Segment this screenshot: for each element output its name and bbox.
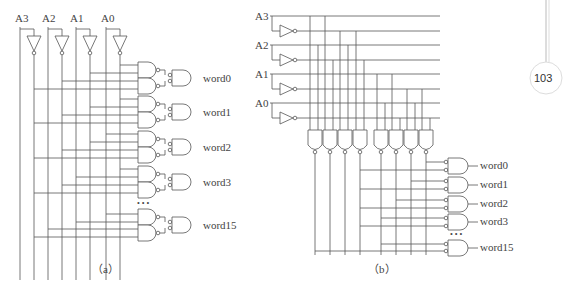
predecode-gates (308, 130, 433, 154)
caption-a: （a） (92, 263, 119, 275)
input-label-a2: A2 (42, 12, 55, 24)
input-label-a1: A1 (255, 68, 268, 80)
output-label-word2: word2 (480, 197, 508, 209)
final-and-gates (444, 158, 468, 256)
output-label-word15: word15 (480, 241, 514, 253)
page-number: 103 (534, 72, 552, 84)
output-label-word3: word3 (203, 176, 232, 188)
decoder-diagram: A3 A2 A1 A0 (0, 0, 575, 289)
output-label-word1: word1 (480, 178, 508, 190)
ellipsis: • • • (137, 199, 150, 208)
output-label-word0: word0 (480, 159, 509, 171)
output-label-word2: word2 (203, 141, 231, 153)
input-label-a3: A3 (15, 12, 29, 24)
figure-b: A3 A2 A1 A0 (255, 10, 514, 275)
output-label-word0: word0 (203, 72, 232, 84)
output-label-word15: word15 (203, 219, 237, 231)
input-label-a0: A0 (255, 97, 269, 109)
nand-and-gates-a (138, 62, 191, 241)
figure-a: A3 A2 A1 A0 (15, 12, 237, 280)
input-label-a1: A1 (70, 12, 83, 24)
page-number-badge: 103 (530, 0, 562, 94)
input-label-a2: A2 (255, 39, 268, 51)
input-label-a3: A3 (255, 10, 269, 22)
output-label-word1: word1 (203, 106, 231, 118)
input-label-a0: A0 (101, 12, 115, 24)
ellipsis: • • • (450, 230, 463, 239)
caption-b: （b） (368, 263, 396, 275)
output-label-word3: word3 (480, 215, 509, 227)
inverter-icon (280, 25, 297, 124)
inverter-icon (27, 36, 127, 55)
